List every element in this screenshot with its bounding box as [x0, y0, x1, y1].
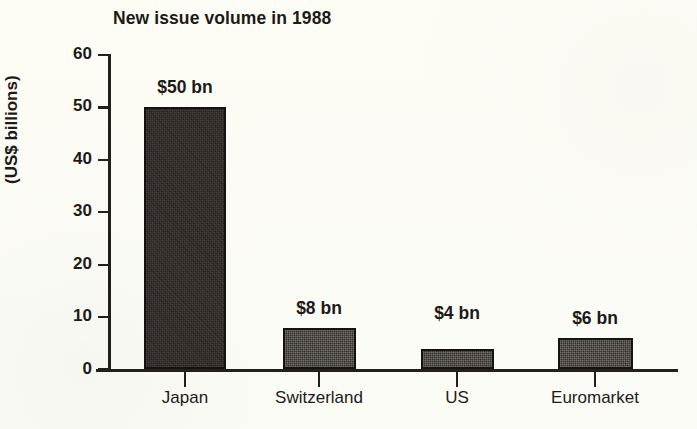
y-axis-title: (US$ billions) [2, 0, 22, 184]
x-axis-tick [456, 371, 458, 387]
y-axis-tick-label: 50 [46, 96, 92, 116]
x-axis-category-label: Euromarket [551, 388, 639, 408]
y-axis-tick-label: 30 [46, 201, 92, 221]
y-axis-tick [98, 54, 109, 56]
x-axis-category-label: Switzerland [275, 388, 363, 408]
y-axis-tick-label: 60 [46, 44, 92, 64]
y-axis-tick [98, 264, 109, 266]
y-axis-tick [98, 106, 109, 108]
y-axis-tick-label: 20 [46, 254, 92, 274]
bar-value-label: $8 bn [296, 298, 342, 319]
y-axis-tick [98, 316, 109, 318]
y-axis-tick-label: 40 [46, 149, 92, 169]
bar-switzerland [283, 328, 356, 370]
chart-figure: New issue volume in 1988 (US$ billions) … [0, 0, 697, 429]
bar-japan [144, 107, 226, 369]
y-axis-tick-label: 0 [46, 359, 92, 379]
bar-value-label: $50 bn [157, 77, 212, 98]
chart-title: New issue volume in 1988 [113, 8, 331, 29]
bar-value-label: $4 bn [434, 303, 480, 324]
y-axis-tick [98, 368, 109, 370]
bar-us [421, 349, 494, 370]
bar-value-label: $6 bn [572, 308, 618, 329]
x-axis-tick [184, 371, 186, 387]
bar-euromarket [558, 338, 633, 369]
x-axis-tick [594, 371, 596, 387]
y-axis-tick [98, 211, 109, 213]
y-axis-tick-label: 10 [46, 306, 92, 326]
x-axis-category-label: Japan [162, 388, 208, 408]
y-axis-tick [98, 159, 109, 161]
x-axis-tick [318, 371, 320, 387]
x-axis-category-label: US [445, 388, 469, 408]
